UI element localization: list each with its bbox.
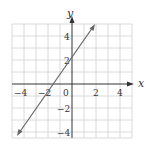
- x-tick-2: 2: [93, 88, 99, 98]
- x-axis-label: x: [138, 77, 145, 90]
- y-tick-4: 4: [64, 32, 70, 42]
- y-axis-label: y: [66, 7, 74, 20]
- coordinate-plane: x y −4 −2 0 2 4 4 2 −2 −4: [0, 0, 152, 145]
- x-tick-0: 0: [63, 88, 69, 98]
- y-tick-neg4: −4: [57, 128, 71, 138]
- x-tick-4: 4: [117, 88, 123, 98]
- x-axis: [12, 82, 134, 87]
- x-tick-neg4: −4: [14, 88, 28, 98]
- x-axis-arrow-icon: [127, 82, 134, 87]
- plotted-line: [17, 24, 95, 136]
- y-tick-neg2: −2: [57, 104, 70, 114]
